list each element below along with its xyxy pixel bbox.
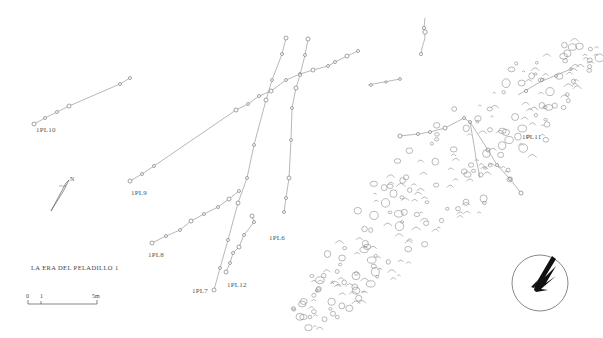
trackway-label-1PL9: 1PL9	[131, 189, 147, 197]
trackway-label-1PL11: 1PL11	[522, 133, 541, 141]
trackway-1PL7	[212, 36, 288, 292]
minor-trackway-a	[419, 18, 427, 56]
trackway-label-1PL8: 1PL8	[148, 251, 164, 259]
trackway-label-1PL7: 1PL7	[192, 287, 208, 295]
trackway-1PL8	[150, 190, 241, 246]
trackway-label-1PL12: 1PL12	[227, 281, 247, 289]
scale-label-1: 1	[40, 293, 43, 299]
trackway-1PL9	[128, 50, 360, 184]
trackway-1PL12	[224, 214, 256, 274]
scale-bar	[28, 300, 97, 304]
north-arrow-icon	[51, 180, 69, 211]
trackway-label-1PL6: 1PL6	[269, 234, 285, 242]
stones-layer	[291, 39, 603, 331]
scale-label-5m: 5m	[92, 293, 100, 299]
site-title: LA ERA DEL PELADILLO 1	[31, 264, 119, 271]
minor-trackway-b	[368, 78, 401, 87]
scale-label-0: 0	[26, 293, 29, 299]
rose-diagram	[512, 255, 568, 311]
trackways-layer	[32, 36, 523, 292]
site-map	[0, 0, 603, 338]
trackway-1PL6	[283, 37, 311, 214]
trackway-1PL10	[32, 77, 132, 127]
trackway-label-1PL10: 1PL10	[36, 126, 56, 134]
north-label: N	[70, 176, 75, 182]
